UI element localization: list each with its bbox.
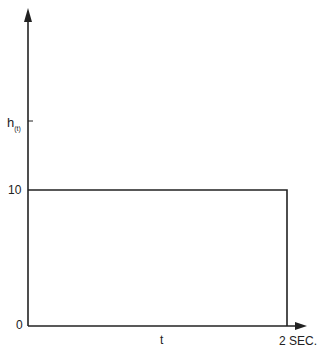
y-tick-10: 10 bbox=[8, 183, 21, 197]
pulse-line bbox=[28, 190, 287, 326]
x-axis-arrow-icon bbox=[295, 322, 307, 330]
origin-label: 0 bbox=[16, 318, 23, 332]
plot-canvas bbox=[0, 0, 325, 351]
y-axis-label: h(t) bbox=[7, 115, 21, 132]
x-axis-label: t bbox=[160, 333, 163, 347]
x-end-label: 2 SEC. bbox=[279, 334, 317, 348]
y-axis-arrow-icon bbox=[24, 8, 32, 22]
